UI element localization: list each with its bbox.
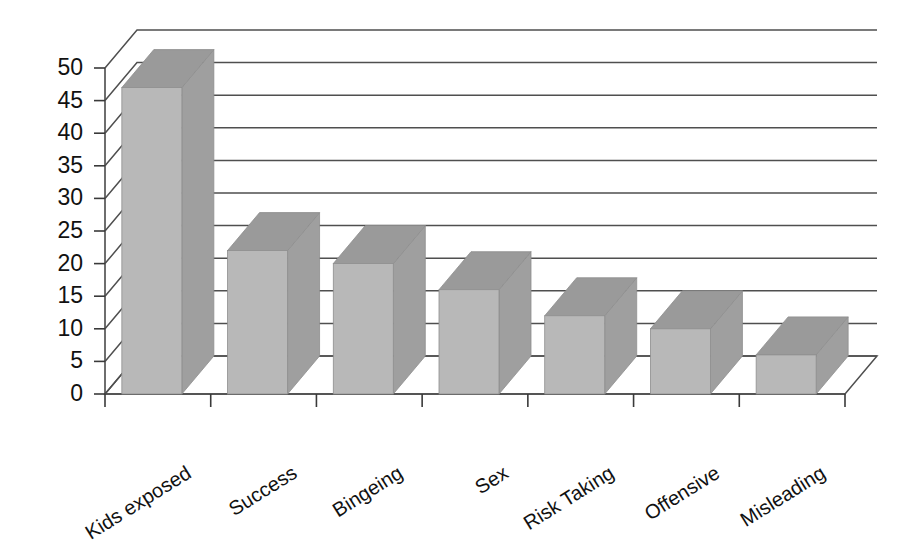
y-tick-label: 0 — [70, 380, 83, 406]
x-category-label: Kids exposed — [81, 461, 194, 543]
x-axis-category-labels: Kids exposedSuccessBingeingSexRisk Takin… — [81, 461, 829, 543]
x-category-label: Sex — [471, 461, 512, 498]
y-tick-label: 30 — [57, 184, 83, 210]
y-tick-label: 10 — [57, 315, 83, 341]
bar-front-face — [122, 88, 182, 394]
bar — [545, 278, 637, 394]
bar-side-face — [182, 50, 214, 394]
bar — [650, 291, 742, 394]
bar-front-face — [333, 264, 393, 394]
bar-front-face — [439, 290, 499, 394]
bar-chart: 05101520253035404550 Kids exposedSuccess… — [0, 0, 918, 548]
x-category-label: Offensive — [640, 461, 723, 524]
bar-front-face — [650, 329, 710, 394]
bar-front-face — [228, 251, 288, 394]
bar — [756, 317, 848, 394]
y-tick-label: 35 — [57, 152, 83, 178]
x-category-label: Risk Taking — [520, 461, 618, 534]
bar — [439, 252, 531, 394]
chart-canvas: 05101520253035404550 Kids exposedSuccess… — [0, 0, 918, 548]
y-tick-label: 5 — [70, 347, 83, 373]
bar — [228, 213, 320, 394]
y-tick-label: 45 — [57, 87, 83, 113]
x-category-label: Misleading — [736, 461, 829, 530]
y-axis-tick-labels: 05101520253035404550 — [57, 54, 83, 406]
y-tick-label: 25 — [57, 217, 83, 243]
bar — [333, 226, 425, 394]
bar — [122, 50, 214, 394]
y-tick-label: 40 — [57, 119, 83, 145]
x-category-label: Bingeing — [329, 461, 407, 521]
bar-front-face — [756, 355, 816, 394]
y-tick-label: 50 — [57, 54, 83, 80]
bar-front-face — [545, 316, 605, 394]
y-tick-label: 20 — [57, 250, 83, 276]
bar-series — [122, 50, 848, 394]
x-axis-tickmarks — [105, 394, 845, 407]
x-category-label: Success — [225, 461, 301, 520]
y-tick-label: 15 — [57, 282, 83, 308]
